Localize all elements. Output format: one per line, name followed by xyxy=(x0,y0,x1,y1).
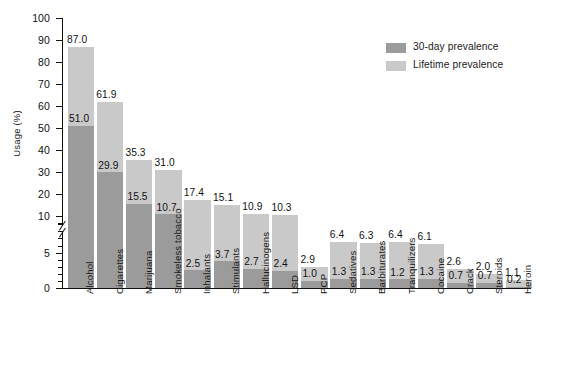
x-label-5: Stimulants xyxy=(230,248,241,294)
x-label-4: Inhalants xyxy=(201,254,212,294)
value-label-lifetime-0: 87.0 xyxy=(67,34,87,45)
y-tick-label-0: 0 xyxy=(16,282,50,294)
value-label-lifetime-10: 6.3 xyxy=(359,230,373,241)
value-label-30day-15: 0.2 xyxy=(507,274,521,285)
x-label-8: PCP xyxy=(318,274,329,294)
value-label-lifetime-8: 2.9 xyxy=(301,254,315,265)
x-label-15: Heroin xyxy=(522,265,533,294)
y-minor-tick-4 xyxy=(58,260,63,261)
y-minor-tick-2 xyxy=(58,274,63,275)
y-tick-label-40: 40 xyxy=(16,144,50,156)
y-tick-0 xyxy=(56,288,63,289)
y-tick-40 xyxy=(56,150,63,151)
value-label-30day-11: 1.2 xyxy=(390,267,404,278)
legend-swatch-30day xyxy=(386,43,406,53)
y-tick-90 xyxy=(56,40,63,41)
value-label-lifetime-7: 10.3 xyxy=(271,202,291,213)
x-label-9: Sedatives xyxy=(347,251,358,294)
value-label-lifetime-5: 15.1 xyxy=(213,192,233,203)
value-label-30day-0: 51.0 xyxy=(69,113,89,124)
value-label-30day-7: 2.4 xyxy=(273,258,287,269)
legend-label-lifetime: Lifetime prevalence xyxy=(413,59,503,70)
x-label-7: LSD xyxy=(289,275,300,294)
y-tick-label-80: 80 xyxy=(16,56,50,68)
y-minor-tick-9 xyxy=(58,223,63,224)
value-label-lifetime-13: 2.6 xyxy=(447,256,461,267)
y-tick-70 xyxy=(56,84,63,85)
value-label-30day-9: 1.3 xyxy=(332,266,346,277)
value-label-30day-14: 0.7 xyxy=(478,270,492,281)
value-label-30day-13: 0.7 xyxy=(449,270,463,281)
bar-chart: Usage (%) 10090807060504030201050 87.051… xyxy=(0,0,567,388)
y-tick-label-70: 70 xyxy=(16,78,50,90)
x-label-2: Marijuana xyxy=(143,251,154,294)
y-tick-60 xyxy=(56,106,63,107)
legend-label-30day: 30-day prevalence xyxy=(413,41,499,52)
y-minor-tick-8 xyxy=(58,231,63,232)
x-label-1: Cigarettes xyxy=(114,249,125,294)
y-minor-tick-6 xyxy=(58,246,63,247)
y-tick-10 xyxy=(56,216,63,217)
x-label-11: Tranquilizers xyxy=(406,237,417,294)
value-label-lifetime-11: 6.4 xyxy=(388,229,402,240)
y-tick-label-60: 60 xyxy=(16,100,50,112)
y-tick-20 xyxy=(56,194,63,195)
value-label-30day-12: 1.3 xyxy=(419,266,433,277)
x-label-6: Hallucinogens xyxy=(260,232,271,294)
value-label-lifetime-3: 31.0 xyxy=(155,157,175,168)
y-tick-label-90: 90 xyxy=(16,34,50,46)
value-label-30day-4: 2.5 xyxy=(186,258,200,269)
x-label-0: Alcohol xyxy=(84,261,95,294)
x-label-14: Steroids xyxy=(493,258,504,294)
y-tick-label-50: 50 xyxy=(16,122,50,134)
x-label-12: Cocaine xyxy=(435,258,446,294)
value-label-lifetime-12: 6.1 xyxy=(417,231,431,242)
value-label-lifetime-9: 6.4 xyxy=(330,229,344,240)
value-label-30day-5: 3.7 xyxy=(215,249,229,260)
value-label-lifetime-1: 61.9 xyxy=(96,89,116,100)
value-label-lifetime-6: 10.9 xyxy=(242,201,262,212)
x-label-3: Smokeless tobacco xyxy=(172,208,183,294)
x-label-10: Barbiturates xyxy=(376,240,387,294)
value-label-30day-10: 1.3 xyxy=(361,266,375,277)
y-tick-label-100: 100 xyxy=(16,12,50,24)
value-label-lifetime-4: 17.4 xyxy=(184,187,204,198)
value-label-30day-8: 1.0 xyxy=(303,268,317,279)
y-tick-5 xyxy=(56,253,63,254)
y-minor-tick-7 xyxy=(58,238,63,239)
legend-swatch-lifetime xyxy=(386,61,406,71)
y-minor-tick-3 xyxy=(58,267,63,268)
y-tick-50 xyxy=(56,128,63,129)
value-label-30day-1: 29.9 xyxy=(98,160,118,171)
value-label-lifetime-2: 35.3 xyxy=(125,147,145,158)
y-tick-label-30: 30 xyxy=(16,166,50,178)
y-tick-100 xyxy=(56,18,63,19)
x-label-13: Crack xyxy=(464,268,475,294)
y-tick-label-10: 10 xyxy=(16,210,50,222)
y-minor-tick-1 xyxy=(58,281,63,282)
y-tick-80 xyxy=(56,62,63,63)
y-tick-label-20: 20 xyxy=(16,188,50,200)
value-label-30day-2: 15.5 xyxy=(127,191,147,202)
value-label-30day-6: 2.7 xyxy=(244,256,258,267)
y-tick-label-5: 5 xyxy=(16,247,50,259)
y-tick-30 xyxy=(56,172,63,173)
